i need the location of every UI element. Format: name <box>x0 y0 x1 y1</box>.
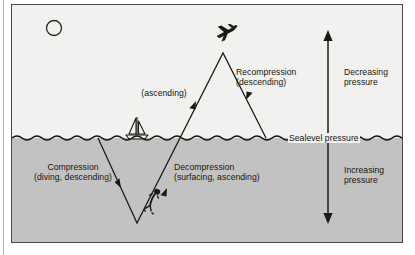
page-margin-rule <box>3 0 4 255</box>
arrow-up-icon <box>323 30 332 41</box>
label-ascending: (ascending) <box>124 88 204 98</box>
airplane-icon <box>214 21 240 43</box>
label-recompression-line2: (descending) <box>236 77 286 87</box>
figure-frame: (ascending) Recompression (descending) D… <box>11 4 403 243</box>
diagram-graphics <box>12 5 403 243</box>
label-decreasing-pressure-line1: Decreasing <box>344 67 388 77</box>
label-decompression-line2: (surfacing, ascending) <box>174 172 260 182</box>
label-compression-line2: (diving, descending) <box>18 172 128 182</box>
label-increasing-pressure-line1: Increasing <box>344 165 384 175</box>
label-increasing-pressure-line2: pressure <box>344 175 378 185</box>
arrowhead-decompression <box>160 187 170 198</box>
label-decompression-line1: Decompression <box>174 162 234 172</box>
label-sealevel-pressure: Sealevel pressure <box>288 133 360 143</box>
sun-circle-icon <box>47 21 62 36</box>
arrow-down-icon <box>323 213 332 224</box>
figure-root: (ascending) Recompression (descending) D… <box>0 0 415 255</box>
label-compression-line1: Compression <box>18 162 128 172</box>
label-decreasing-pressure-line2: pressure <box>344 77 378 87</box>
label-recompression-line1: Recompression <box>236 67 296 77</box>
